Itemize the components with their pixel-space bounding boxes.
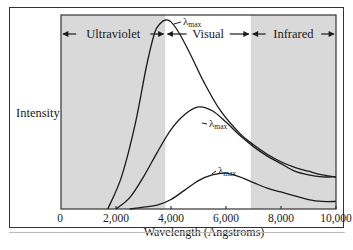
footer-divider bbox=[9, 232, 345, 233]
x-tick-label-3: 6,000 bbox=[213, 212, 239, 225]
x-tick-label-4: 8,000 bbox=[268, 212, 294, 225]
x-tick-label-2: 4,000 bbox=[158, 212, 184, 225]
spectrum-chart: UltravioletVisualInfraredλmaxλmaxλmax02,… bbox=[0, 0, 353, 250]
x-tick-label-5: 10,000 bbox=[320, 212, 352, 225]
region-visual bbox=[166, 15, 251, 209]
region-infrared bbox=[251, 15, 336, 209]
region-label-infrared: Infrared bbox=[273, 27, 314, 41]
region-label-visual: Visual bbox=[192, 27, 224, 41]
y-axis-label: Intensity bbox=[16, 106, 60, 120]
region-label-ultraviolet: Ultraviolet bbox=[86, 27, 141, 41]
region-ultraviolet bbox=[61, 15, 166, 209]
x-tick-label-0: 0 bbox=[57, 212, 63, 224]
x-tick-label-1: 2,000 bbox=[103, 212, 129, 225]
